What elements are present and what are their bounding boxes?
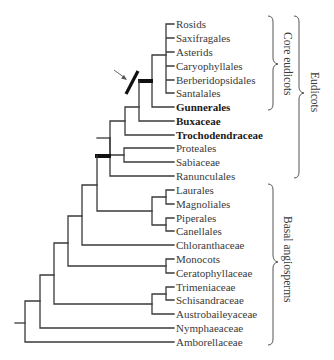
branch (152, 55, 174, 107)
taxon-label: Caryophyllales (176, 60, 243, 72)
slash-mark (126, 71, 138, 94)
branch (166, 287, 174, 300)
bracket-eudicots (294, 16, 304, 178)
branch (40, 275, 174, 328)
branch (166, 218, 174, 231)
taxon-label: Chloranthaceae (176, 239, 244, 251)
branch (139, 81, 174, 121)
branch (97, 156, 152, 211)
taxon-label: Canellales (176, 225, 222, 237)
branch (110, 121, 125, 155)
taxon-label: Proteales (176, 142, 216, 154)
taxon-label: Asterids (176, 46, 213, 58)
taxon-label: Berberidopsidales (176, 74, 255, 86)
taxon-label: Monocots (176, 253, 220, 265)
taxon-label: Amborellaceae (176, 336, 243, 348)
arrow-icon (114, 70, 127, 80)
taxon-label: Nymphaeaceae (176, 322, 243, 334)
taxon-label: Ranunculales (176, 170, 235, 182)
taxon-label: Ceratophyllaceae (176, 267, 252, 279)
taxon-label: Trimeniaceae (176, 281, 235, 293)
taxon-label: Trochodendraceae (176, 129, 263, 141)
branch (82, 185, 174, 245)
branch (110, 138, 174, 176)
taxon-label: Buxaceae (176, 115, 221, 127)
branch (152, 197, 166, 225)
taxon-label: Gunnerales (176, 101, 230, 113)
taxon-label: Piperales (176, 212, 216, 224)
taxon-label: Rosids (176, 18, 206, 30)
taxon-label: Laurales (176, 184, 214, 196)
branch (166, 259, 174, 273)
branch (124, 148, 174, 162)
taxon-label: Saxifragales (176, 32, 230, 44)
branch (152, 294, 174, 314)
taxon-label: Sabiaceae (176, 156, 220, 168)
group-label-eudicots: Eudicots (309, 72, 321, 112)
branch (68, 216, 166, 266)
branch (166, 190, 174, 204)
group-label-core-eudicots: Core eudicots (282, 32, 294, 96)
taxon-label: Magnoliales (176, 198, 230, 210)
group-label-basal-angiosperms: Basal angiosperms (282, 216, 294, 303)
taxon-label: Austrobaileyaceae (176, 308, 257, 320)
taxon-label: Santalales (176, 87, 221, 99)
bracket-basal-angiosperms (268, 184, 278, 345)
bracket-core-eudicots (268, 16, 278, 110)
branch (54, 243, 152, 304)
branch (166, 24, 174, 93)
taxon-label: Schisandraceae (176, 294, 244, 306)
